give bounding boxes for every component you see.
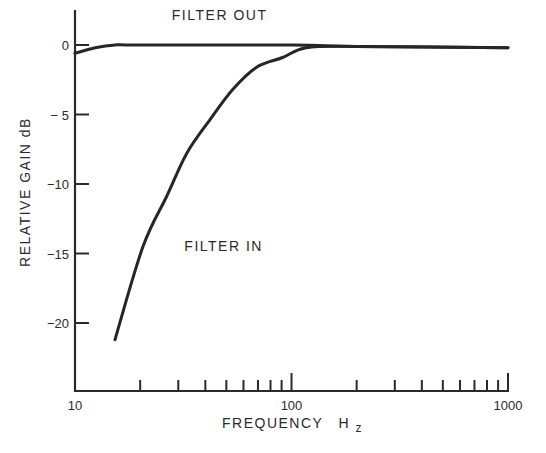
y-tick-label: −10 [47, 177, 69, 192]
x-tick-label: 100 [281, 398, 303, 413]
x-tick-label: 10 [68, 398, 82, 413]
y-tick-label: − 5 [51, 108, 69, 123]
series [75, 45, 508, 340]
x-ticks: 101001000 [68, 373, 523, 413]
frequency-response-chart: 0− 5−10−15−20 101001000 FILTER OUTFILTER… [0, 0, 546, 453]
x-axis-label: FREQUENCY H z [222, 415, 363, 435]
x-axis-label-unit-sub: z [356, 421, 364, 435]
y-axis-label: RELATIVE GAIN dB [17, 117, 33, 267]
filter-out-label: FILTER OUT [172, 7, 268, 23]
y-ticks: 0− 5−10−15−20 [47, 38, 89, 331]
filter-in-label: FILTER IN [184, 238, 263, 254]
x-axis-label-text: FREQUENCY [222, 415, 323, 431]
x-axis-label-unit: H [339, 415, 351, 431]
axes [74, 10, 509, 392]
y-tick-label: −20 [47, 316, 69, 331]
filter-in-curve [115, 46, 508, 339]
y-tick-label: 0 [62, 38, 69, 53]
x-tick-label: 1000 [494, 398, 523, 413]
y-tick-label: −15 [47, 247, 69, 262]
